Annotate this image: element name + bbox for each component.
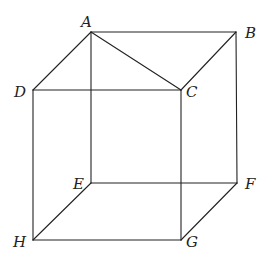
edge-ad [33,32,91,90]
edge-bf [236,32,237,183]
vertex-label-f: F [244,175,256,193]
cube-diagram: A B C D E F G H [0,0,269,262]
cube-edges [33,32,237,240]
vertex-label-c: C [186,83,198,101]
edge-bc [181,32,236,90]
vertex-label-g: G [186,233,198,251]
vertex-label-e: E [72,175,84,193]
edge-fg [181,183,237,240]
vertex-label-d: D [13,83,26,101]
vertex-label-a: A [79,13,92,31]
vertex-label-b: B [244,24,256,42]
vertex-label-h: H [12,233,27,251]
edge-ac [91,32,181,90]
